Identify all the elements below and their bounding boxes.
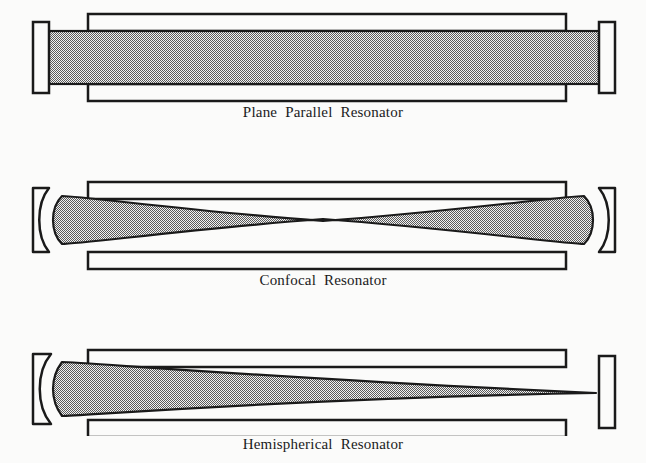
figure-plane-parallel: Plane Parallel Resonator — [0, 0, 646, 121]
tube-wall-upper — [88, 14, 566, 31]
resonator-figure-page: Plane Parallel Resonator Confocal Resona… — [0, 0, 646, 463]
figure-caption-confocal: Confocal Resonator — [0, 272, 646, 289]
tube-wall-lower — [88, 252, 566, 269]
plane-parallel-diagram — [0, 0, 646, 104]
beam-envelope — [53, 362, 596, 416]
figure-confocal: Confocal Resonator — [0, 168, 646, 289]
tube-wall-lower — [88, 84, 566, 101]
tube-wall-upper — [88, 350, 566, 367]
figure-hemispherical: Hemispherical Resonator — [0, 336, 646, 453]
mirror-left-concave — [33, 354, 51, 424]
beam-envelope — [53, 196, 593, 244]
mirror-right-flat — [599, 22, 615, 93]
confocal-diagram — [0, 168, 646, 272]
beam-envelope — [48, 31, 600, 84]
figure-caption-hemispherical: Hemispherical Resonator — [0, 436, 646, 453]
tube-wall-lower — [88, 420, 566, 436]
hemispherical-diagram — [0, 336, 646, 436]
tube-wall-upper — [88, 182, 566, 199]
figure-caption-plane-parallel: Plane Parallel Resonator — [0, 104, 646, 121]
mirror-right-flat — [599, 356, 615, 428]
mirror-right-concave — [599, 188, 615, 252]
mirror-left-concave — [33, 188, 49, 252]
mirror-left-flat — [33, 22, 49, 93]
